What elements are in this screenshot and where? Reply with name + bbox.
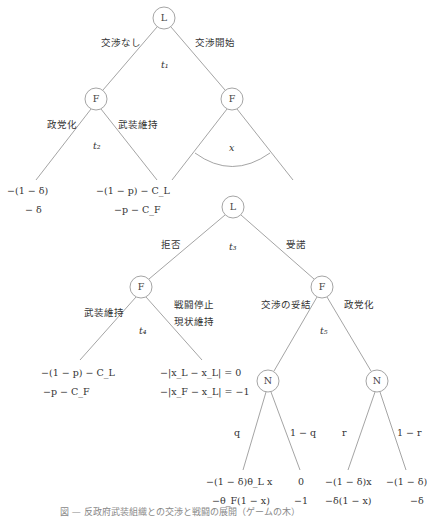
edge-party-formation-1: 政党化: [47, 119, 77, 131]
payoff-L-4: −|x_L − x_L| = 0: [160, 367, 241, 379]
payoff-F-1: − δ: [25, 204, 42, 216]
time-t5: t₅: [320, 325, 328, 337]
figure-caption: 図 — 反政府武装組織との交渉と戦闘の展開（ゲームの木）: [60, 505, 300, 518]
edge-reject: 拒否: [161, 239, 181, 251]
edge-settlement: 交渉の妥結: [261, 299, 311, 311]
node-F-bargain: F: [221, 88, 243, 110]
time-t2: t₂: [93, 140, 101, 152]
payoff-L-7: −(1 − δ)x: [325, 476, 372, 488]
node-L-root-2: L: [222, 196, 244, 218]
prob-r: r: [342, 427, 347, 439]
time-t3: t₃: [229, 241, 237, 253]
node-F-t4: F: [130, 276, 152, 298]
node-F-t2: F: [85, 88, 107, 110]
payoff-F-7: −δ(1 − x): [325, 495, 372, 507]
payoff-F-8: −δ: [410, 495, 424, 507]
edge-ceasefire: 戦闘停止: [174, 299, 214, 311]
prob-1-r: 1 − r: [397, 427, 422, 439]
node-N-right: N: [366, 370, 388, 392]
edge-keep-arms-2: 武装維持: [84, 307, 124, 319]
time-t1: t₁: [161, 59, 169, 71]
payoff-F-2: −p − C_F: [114, 204, 161, 216]
time-t4: t₄: [139, 325, 147, 337]
payoff-L-5: −(1 − δ)θ_L x: [206, 476, 272, 488]
edge-start-negotiation: 交渉開始: [195, 37, 235, 49]
node-L-root-1: L: [153, 7, 175, 29]
edge-status-quo: 現状維持: [174, 316, 214, 328]
arc-label-x: x: [229, 142, 234, 154]
payoff-F-3: −p − C_F: [43, 386, 90, 398]
node-F-t5: F: [311, 276, 333, 298]
edge-no-negotiation: 交渉なし: [101, 37, 141, 49]
node-N-left: N: [257, 370, 279, 392]
prob-1-q: 1 − q: [290, 427, 316, 439]
payoff-L-1: −(1 − δ): [7, 185, 48, 197]
prob-q: q: [234, 427, 240, 439]
payoff-L-6: 0: [298, 476, 304, 488]
edge-party-formation-2: 政党化: [344, 299, 374, 311]
payoff-L-3: −(1 − p) − C_L: [41, 367, 115, 379]
payoff-L-8: −(1 − δ): [386, 476, 427, 488]
edge-keep-arms-1: 武装維持: [118, 119, 158, 131]
payoff-F-4: −|x_F − x_L| = −1: [160, 386, 249, 398]
payoff-L-2: −(1 − p) − C_L: [96, 185, 170, 197]
edge-accept: 受諾: [286, 239, 306, 251]
